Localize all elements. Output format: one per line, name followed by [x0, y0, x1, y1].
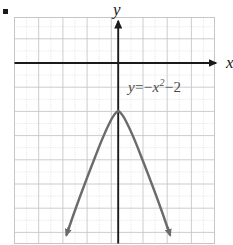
- plot-background: [15, 18, 215, 244]
- x-axis-label: x: [226, 54, 233, 71]
- equation-first-minus: −: [144, 79, 153, 95]
- graph-canvas: [0, 0, 233, 245]
- equation-lhs: y: [128, 79, 135, 95]
- equation-equals: =: [135, 79, 144, 95]
- y-axis-label: y: [113, 1, 121, 18]
- equation-second-minus: −: [165, 79, 174, 95]
- equation-constant: 2: [174, 79, 182, 95]
- parabola-figure: y x y=−x2−2: [0, 0, 233, 245]
- equation-label: y=−x2−2: [128, 79, 181, 96]
